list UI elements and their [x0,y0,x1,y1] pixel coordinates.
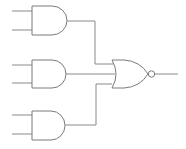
and-gate-1 [12,6,67,35]
and3-to-nor-wire [65,84,112,125]
and-gate-icon [32,60,66,88]
and1-to-nor-wire [67,21,113,64]
and-gate-2 [12,60,66,88]
logic-circuit-diagram [0,0,186,149]
nor-gate-icon [112,60,148,88]
inversion-bubble-icon [148,71,154,77]
and-gate-icon [32,6,67,35]
and-gate-3 [12,111,65,140]
nor-gate [112,60,178,88]
and-gate-icon [32,111,65,140]
